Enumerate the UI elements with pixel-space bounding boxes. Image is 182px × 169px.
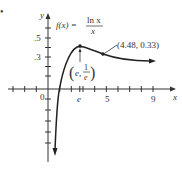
- max-label-close-paren: ): [90, 64, 95, 82]
- function-curve: [55, 46, 150, 150]
- max-label-open-paren: (: [69, 64, 74, 82]
- y-tick-label-0.3: .3: [34, 52, 41, 62]
- x-tick-label-e: e: [77, 94, 81, 104]
- max-label-numerator: 1: [84, 63, 88, 72]
- y-axis-arrow-icon: [46, 13, 51, 19]
- maximum-point: [78, 44, 82, 48]
- function-label-numerator: ln x: [87, 15, 101, 25]
- origin-label: 0: [40, 92, 45, 102]
- curve-right-arrow-icon: [149, 59, 156, 64]
- x-tick-label-9: 9: [151, 94, 156, 104]
- inflection-point: [101, 52, 105, 56]
- inflection-pointer: [105, 45, 117, 53]
- bullet-mark: •: [0, 6, 4, 17]
- inflection-label: (4.48, 0.33): [117, 40, 159, 50]
- y-tick-label-0.5: .5: [34, 33, 41, 43]
- max-label-denominator: e: [84, 73, 88, 82]
- y-axis-label: y: [39, 10, 44, 20]
- graph: •: [0, 0, 182, 169]
- x-axis-arrow-icon: [170, 87, 176, 92]
- x-axis-label: x: [172, 92, 177, 102]
- max-label-e: e,: [75, 68, 81, 78]
- function-label-lhs: f(x) =: [56, 20, 77, 30]
- function-label-denominator: x: [90, 26, 95, 36]
- max-pointer-arrow-icon: [79, 48, 82, 52]
- curve-down-arrow-icon: [53, 148, 58, 156]
- x-tick-label-5: 5: [105, 94, 110, 104]
